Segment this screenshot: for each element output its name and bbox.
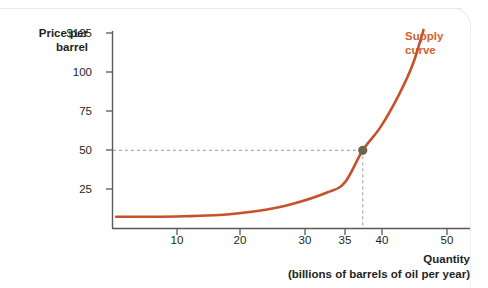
supply-curve-path (116, 30, 423, 217)
plot-area (0, 0, 488, 288)
equilibrium-point-marker (358, 146, 367, 155)
supply-curve-figure: Price per barrel $125 100 75 50 25 10 20… (0, 0, 488, 288)
